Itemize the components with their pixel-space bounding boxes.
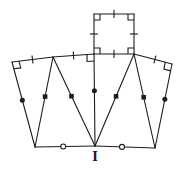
figure-label: I xyxy=(92,150,98,164)
square-marker-icon xyxy=(43,94,48,99)
right-angle-icon xyxy=(14,61,21,69)
segment-line xyxy=(12,62,35,147)
diagram-canvas: I xyxy=(0,0,186,170)
open-circle-marker-icon xyxy=(61,144,66,149)
right-angle-icon xyxy=(128,48,134,54)
segment-line xyxy=(134,54,155,148)
segment-line xyxy=(95,54,134,146)
segment-line xyxy=(94,54,95,146)
tick-mark-icon xyxy=(32,56,33,64)
dot-marker-icon xyxy=(92,88,97,93)
right-angle-icon xyxy=(87,55,94,62)
dot-marker-icon xyxy=(162,97,167,102)
tick-mark-icon xyxy=(73,52,74,60)
square-marker-icon xyxy=(141,95,146,100)
right-angle-icon xyxy=(128,14,134,20)
square-marker-icon xyxy=(69,94,74,99)
segment-line xyxy=(35,57,53,147)
right-angle-icon xyxy=(94,14,100,20)
segment-line xyxy=(53,57,95,146)
square-marker-icon xyxy=(114,94,119,99)
right-angle-icon xyxy=(94,48,100,54)
dot-marker-icon xyxy=(20,98,25,103)
segment-line xyxy=(134,54,172,64)
segment-line xyxy=(155,64,172,148)
geometry-figure: I xyxy=(0,0,186,170)
open-circle-marker-icon xyxy=(120,144,125,149)
right-angle-marks xyxy=(14,14,171,71)
